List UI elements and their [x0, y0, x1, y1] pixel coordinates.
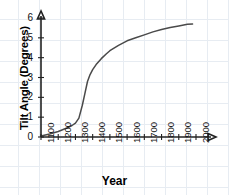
x-tick-label: 1700	[149, 122, 159, 143]
x-tick-label: 1100	[46, 123, 56, 143]
tilt-angle-line-chart: 0123456 11001200130014001500160017001800…	[0, 0, 229, 195]
plot-area	[0, 0, 229, 195]
x-tick-label: 1800	[166, 122, 176, 143]
x-tick-label: 1600	[132, 122, 142, 143]
x-tick-label: 1500	[114, 122, 124, 143]
x-tick-label: 1900	[183, 122, 193, 143]
y-axis-title: Tilt Angle (Degrees)	[18, 18, 30, 138]
x-axis-title: Year	[0, 174, 229, 188]
x-tick-label: 1200	[63, 122, 73, 143]
x-tick-label: 1400	[97, 122, 107, 143]
x-tick-label: 1300	[80, 122, 90, 143]
x-tick-label: 2000	[201, 122, 211, 143]
tilt-angle-curve	[41, 24, 193, 136]
